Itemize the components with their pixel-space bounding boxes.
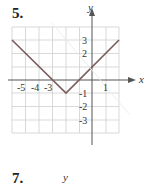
y-axis-label-7: y [63,172,68,183]
y-tick: -3 [79,116,87,126]
y-tick: 3 [82,36,87,46]
x-tick: 1 [103,83,108,93]
x-axis-label: x [139,74,144,85]
y-tick: -1 [79,89,87,99]
y-tick: -2 [79,102,87,112]
y-axis-label: y [88,2,93,13]
y-tick: 2 [82,49,87,59]
x-tick: -5 [17,83,25,93]
x-tick: -4 [31,83,39,93]
problem-number-7: 7. [12,170,23,185]
x-tick: -3 [44,83,52,93]
